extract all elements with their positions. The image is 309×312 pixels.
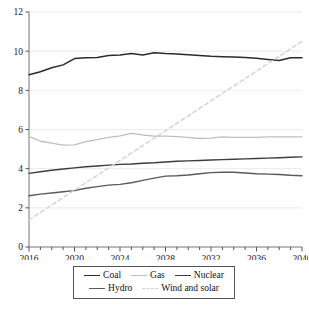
x-tick-label: 2020 bbox=[65, 254, 84, 260]
plot-area: 0246810122016202020242028203220362040 bbox=[0, 0, 308, 260]
line-chart: 0246810122016202020242028203220362040 Co… bbox=[0, 0, 308, 312]
legend-label: Wind and solar bbox=[161, 283, 219, 294]
legend-item-coal[interactable]: Coal bbox=[84, 270, 121, 281]
data-series bbox=[29, 41, 302, 220]
y-tick-label: 10 bbox=[14, 47, 24, 57]
legend-row: HydroWind and solar bbox=[78, 282, 230, 295]
plot-svg: 0246810122016202020242028203220362040 bbox=[0, 0, 308, 260]
series-line-wind-and-solar bbox=[29, 41, 302, 220]
series-line-nuclear bbox=[29, 157, 302, 173]
x-tick-label: 2024 bbox=[111, 254, 130, 260]
chart-legend: CoalGasNuclearHydroWind and solar bbox=[73, 266, 235, 299]
y-tick-label: 6 bbox=[18, 125, 23, 135]
x-tick-label: 2032 bbox=[202, 254, 221, 260]
x-tick-label: 2040 bbox=[293, 254, 309, 260]
legend-swatch-icon bbox=[175, 275, 191, 276]
legend-item-hydro[interactable]: Hydro bbox=[89, 283, 132, 294]
series-line-gas bbox=[29, 133, 302, 145]
legend-swatch-icon bbox=[142, 288, 158, 289]
y-tick-label: 8 bbox=[18, 86, 23, 96]
x-tick-label: 2028 bbox=[156, 254, 175, 260]
series-line-hydro bbox=[29, 172, 302, 196]
y-tick-label: 2 bbox=[18, 203, 23, 213]
legend-label: Hydro bbox=[108, 283, 132, 294]
legend-item-wind-and-solar[interactable]: Wind and solar bbox=[142, 283, 219, 294]
legend-label: Gas bbox=[150, 270, 165, 281]
y-tick-label: 12 bbox=[14, 7, 24, 17]
legend-item-gas[interactable]: Gas bbox=[131, 270, 165, 281]
x-tick-label: 2016 bbox=[20, 254, 39, 260]
legend-item-nuclear[interactable]: Nuclear bbox=[175, 270, 224, 281]
legend-swatch-icon bbox=[89, 288, 105, 289]
legend-swatch-icon bbox=[131, 275, 147, 276]
legend-label: Nuclear bbox=[194, 270, 224, 281]
legend-swatch-icon bbox=[84, 275, 100, 276]
legend-label: Coal bbox=[103, 270, 121, 281]
x-tick-label: 2036 bbox=[247, 254, 266, 260]
legend-row: CoalGasNuclear bbox=[78, 269, 230, 282]
y-tick-label: 0 bbox=[18, 242, 23, 252]
series-line-coal bbox=[29, 53, 302, 75]
y-tick-label: 4 bbox=[18, 164, 23, 174]
grid-lines bbox=[29, 12, 302, 208]
